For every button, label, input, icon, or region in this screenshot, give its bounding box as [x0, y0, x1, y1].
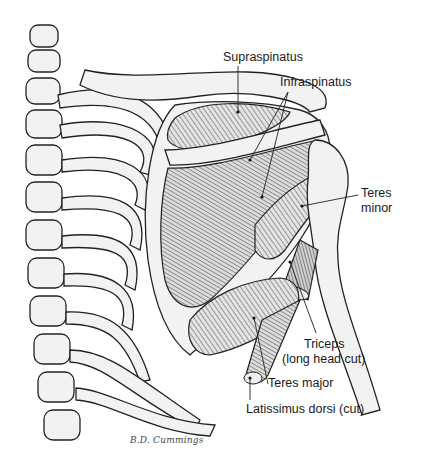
label-triceps-line2: (long head cut): [282, 352, 365, 366]
label-latissimus-dorsi: Latissimus dorsi (cut): [246, 402, 364, 416]
humerus: [307, 140, 380, 415]
label-infraspinatus: Infraspinatus: [280, 75, 352, 89]
label-triceps-line1: Triceps: [304, 337, 345, 351]
label-teres-minor-line2: minor: [361, 201, 392, 215]
label-supraspinatus: Supraspinatus: [223, 50, 303, 64]
label-teres-major: Teres major: [268, 376, 333, 390]
vertebral-column: [26, 25, 80, 440]
label-teres-minor-line1: Teres: [361, 186, 392, 200]
artist-signature: B.D. Cummings: [130, 435, 204, 445]
shoulder-illustration: [0, 0, 427, 459]
